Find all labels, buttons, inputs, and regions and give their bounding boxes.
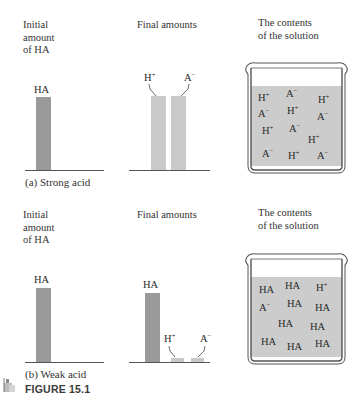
figure-flag-icon [0, 0, 357, 395]
figure-label: FIGURE 15.1 [25, 383, 90, 395]
